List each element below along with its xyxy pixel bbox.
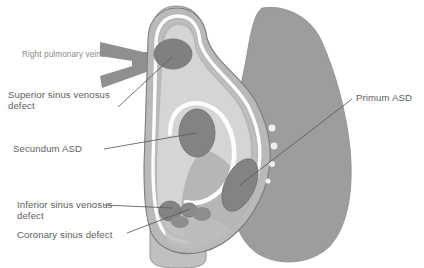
superior-sinus-venosus-defect-oval	[154, 39, 192, 69]
label-secundum-asd: Secundum ASD	[13, 143, 82, 154]
label-inferior-sinus-venosus-defect: Inferior sinus venosus defect	[17, 199, 113, 222]
secundum-asd-oval	[179, 109, 215, 157]
anatomy-illustration	[0, 0, 424, 268]
label-superior-sinus-venosus-defect: Superior sinus venosus defect	[8, 89, 110, 112]
label-right-pulmonary-veins: Right pulmonary veins	[22, 50, 105, 60]
label-primum-asd: Primum ASD	[356, 92, 412, 103]
label-coronary-sinus-defect: Coronary sinus defect	[17, 229, 112, 240]
figure-canvas: Right pulmonary veins Superior sinus ven…	[0, 0, 424, 268]
